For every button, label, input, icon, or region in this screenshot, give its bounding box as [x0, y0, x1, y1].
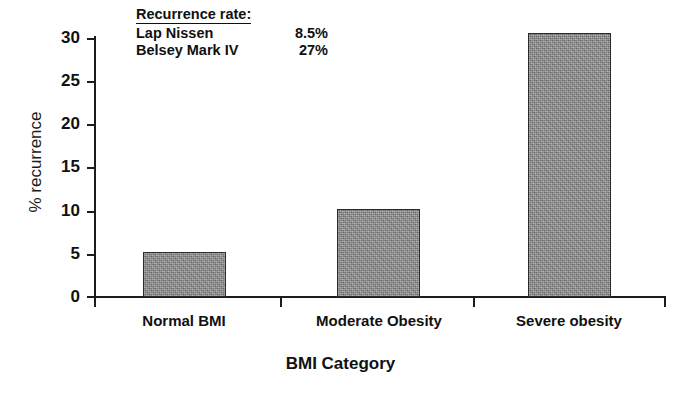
y-tick-20 [87, 124, 95, 126]
x-category-label-moderate-obesity: Moderate Obesity [284, 312, 474, 329]
y-tick-10 [87, 211, 95, 213]
y-tick-5 [87, 254, 95, 256]
bar-normal-bmi [143, 252, 226, 297]
y-tick-label-0: 0 [36, 287, 80, 307]
x-tick-divider-2 [473, 298, 475, 307]
annotation-value-belsey-mark-iv: 27% [299, 42, 328, 59]
y-tick-label-20: 20 [36, 114, 80, 134]
y-tick-30 [87, 38, 95, 40]
y-tick-25 [87, 81, 95, 83]
y-tick-label-30: 30 [36, 28, 80, 48]
recurrence-rate-annotation: Recurrence rate: Lap Nissen 8.5% Belsey … [136, 6, 328, 59]
x-tick-start [94, 298, 96, 307]
annotation-row-belsey-mark-iv: Belsey Mark IV 27% [136, 42, 328, 59]
y-tick-label-25: 25 [36, 71, 80, 91]
y-tick-label-15: 15 [36, 157, 80, 177]
bar-severe-obesity [528, 33, 611, 297]
annotation-title: Recurrence rate: [136, 6, 251, 24]
x-axis-title: BMI Category [0, 354, 681, 374]
x-category-label-normal-bmi: Normal BMI [104, 312, 264, 329]
annotation-label-belsey-mark-iv: Belsey Mark IV [136, 42, 238, 59]
y-tick-label-10: 10 [36, 201, 80, 221]
annotation-value-lap-nissen: 8.5% [295, 25, 328, 42]
annotation-label-lap-nissen: Lap Nissen [136, 25, 213, 42]
x-category-label-severe-obesity: Severe obesity [484, 312, 654, 329]
y-tick-label-5: 5 [36, 244, 80, 264]
annotation-row-lap-nissen: Lap Nissen 8.5% [136, 25, 328, 42]
y-tick-15 [87, 167, 95, 169]
x-tick-end [664, 298, 666, 307]
annotation-title-wrap: Recurrence rate: [136, 6, 328, 25]
bar-moderate-obesity [337, 209, 420, 297]
x-tick-divider-1 [280, 298, 282, 307]
bar-chart: % recurrence 30 25 20 15 10 5 0 Normal B… [0, 0, 681, 396]
